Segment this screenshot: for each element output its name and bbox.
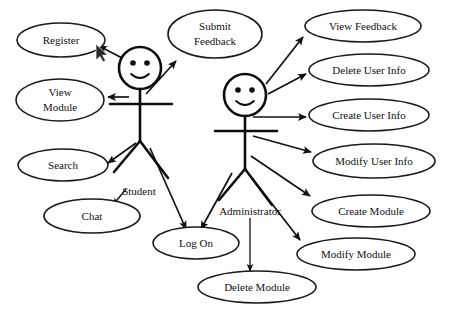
use-case-label: Delete User Info bbox=[332, 64, 406, 76]
use-case-label-line1: View bbox=[48, 86, 71, 98]
use-case-label: Create User Info bbox=[332, 109, 406, 121]
use-case-label: Modify User Info bbox=[335, 155, 413, 167]
actor-student[interactable]: Student bbox=[110, 47, 172, 197]
use-cases-layer: Register Submit Feedback View Module Sea… bbox=[16, 10, 435, 303]
use-case-delete-user-info[interactable]: Delete User Info bbox=[309, 54, 429, 86]
actor-administrator[interactable]: Administrator bbox=[215, 74, 281, 217]
use-case-view-module[interactable]: View Module bbox=[16, 79, 104, 121]
actor-head-icon bbox=[119, 47, 161, 89]
use-case-label: Modify Module bbox=[321, 248, 391, 260]
use-case-label: Register bbox=[43, 34, 80, 46]
use-case-label: Search bbox=[48, 159, 78, 171]
actor-eye-right-icon bbox=[144, 60, 150, 66]
actor-eye-right-icon bbox=[249, 87, 255, 93]
use-case-label: Chat bbox=[82, 210, 103, 222]
actor-leg-right bbox=[245, 169, 272, 205]
use-case-search[interactable]: Search bbox=[18, 149, 108, 181]
use-case-submit-feedback[interactable]: Submit Feedback bbox=[168, 10, 262, 58]
use-case-create-module[interactable]: Create Module bbox=[312, 195, 430, 227]
use-case-view-feedback[interactable]: View Feedback bbox=[305, 10, 421, 42]
association-administrator-log-on[interactable] bbox=[201, 173, 232, 229]
association-administrator-delete-user-info[interactable] bbox=[268, 74, 306, 94]
actor-label-student: Student bbox=[122, 185, 156, 197]
actor-eye-left-icon bbox=[130, 60, 136, 66]
actor-label-administrator: Administrator bbox=[219, 205, 281, 217]
actor-eye-left-icon bbox=[235, 87, 241, 93]
use-case-register[interactable]: Register bbox=[17, 23, 105, 57]
use-case-delete-module[interactable]: Delete Module bbox=[198, 271, 316, 303]
diagram-svg: Register Submit Feedback View Module Sea… bbox=[0, 0, 450, 316]
use-case-log-on[interactable]: Log On bbox=[153, 227, 239, 259]
association-administrator-modify-user-info[interactable] bbox=[253, 136, 311, 152]
actor-head-icon bbox=[224, 74, 266, 116]
use-case-label: Log On bbox=[179, 237, 213, 249]
association-administrator-view-feedback[interactable] bbox=[266, 37, 303, 84]
use-case-modify-module[interactable]: Modify Module bbox=[297, 238, 415, 270]
use-case-diagram-canvas: Register Submit Feedback View Module Sea… bbox=[0, 0, 450, 316]
use-case-label: Delete Module bbox=[224, 281, 290, 293]
use-case-label-line2: Feedback bbox=[194, 35, 237, 47]
use-case-label-line1: Submit bbox=[199, 20, 231, 32]
use-case-modify-user-info[interactable]: Modify User Info bbox=[313, 144, 435, 178]
actor-leg-right bbox=[140, 141, 168, 178]
use-case-create-user-info[interactable]: Create User Info bbox=[309, 99, 429, 131]
association-student-search[interactable] bbox=[108, 143, 136, 163]
use-case-chat[interactable]: Chat bbox=[44, 199, 140, 233]
use-case-label: View Feedback bbox=[329, 20, 398, 32]
use-case-label-line2: Module bbox=[43, 101, 77, 113]
use-case-label: Create Module bbox=[338, 205, 404, 217]
